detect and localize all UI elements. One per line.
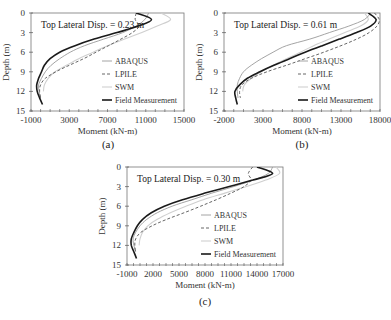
y-tick-label: 12 [112,240,121,250]
y-tick-label: 6 [214,47,219,57]
legend-label: ABAQUS [115,57,148,66]
legend-label: Field Measurement [311,96,374,105]
y-tick-label: 9 [21,67,26,77]
y-axis-title: Depth (m) [194,43,204,80]
legend-label: ABAQUS [214,211,247,220]
x-tick-label: 5000 [170,269,189,279]
legend-label: LPILE [115,70,137,79]
x-tick-label: 11000 [135,115,158,125]
x-tick-label: 7000 [99,115,118,125]
subfigure-caption: (a) [102,138,115,151]
x-axis-title: Moment (kN-m) [78,126,138,136]
x-tick-label: 14000 [246,269,269,279]
legend-label: SWM [115,83,134,92]
x-axis-title: Moment (kN-m) [272,126,332,136]
displacement-annotation: Top Lateral Disp. = 0.61 m [234,20,338,30]
legend-label: ABAQUS [311,57,344,66]
displacement-annotation: Top Lateral Disp. = 0.23 m [41,20,145,30]
x-tick-label: -2000 [214,115,235,125]
y-tick-label: 6 [117,201,122,211]
x-tick-label: -1000 [117,269,138,279]
x-axis-title: Moment (kN-m) [175,280,235,290]
legend-label: SWM [214,237,233,246]
y-tick-label: 6 [21,47,26,57]
subfigure-caption: (c) [199,295,212,308]
x-tick-label: 13000 [330,115,353,125]
y-tick-label: 0 [214,8,219,18]
x-tick-label: 8000 [196,269,215,279]
y-tick-label: 9 [214,67,219,77]
legend: ABAQUSLPILESWMField Measurement [102,57,178,105]
y-tick-label: 0 [21,8,26,18]
y-axis-title: Depth (m) [97,197,107,234]
y-tick-label: 9 [117,221,122,231]
chart-b: 03691215-2000300080001300018000Moment (k… [194,8,391,151]
figure: 03691215-1000300070001100015000Moment (k… [0,0,391,320]
legend-label: Field Measurement [115,96,178,105]
chart-c: 03691215-1000200050008000110001400017000… [97,162,295,308]
x-tick-label: 18000 [369,115,391,125]
legend-label: LPILE [311,70,333,79]
x-tick-label: 3000 [254,115,273,125]
y-tick-label: 12 [16,86,25,96]
x-tick-label: 15000 [173,115,196,125]
legend-label: Field Measurement [214,250,277,259]
x-tick-label: -1000 [21,115,42,125]
displacement-annotation: Top Lateral Disp. = 0.30 m [137,174,241,184]
legend: ABAQUSLPILESWMField Measurement [298,57,374,105]
y-tick-label: 3 [117,182,122,192]
chart-a: 03691215-1000300070001100015000Moment (k… [1,8,196,151]
legend-label: SWM [311,83,330,92]
x-tick-label: 8000 [293,115,312,125]
legend: ABAQUSLPILESWMField Measurement [201,211,277,259]
x-tick-label: 11000 [220,269,243,279]
subfigure-caption: (b) [296,138,309,151]
y-axis-title: Depth (m) [1,43,11,80]
y-tick-label: 12 [209,86,218,96]
x-tick-label: 17000 [272,269,295,279]
legend-label: LPILE [214,224,236,233]
y-tick-label: 3 [21,28,26,38]
x-tick-label: 3000 [60,115,79,125]
y-tick-label: 3 [214,28,219,38]
y-tick-label: 0 [117,162,122,172]
x-tick-label: 2000 [144,269,163,279]
